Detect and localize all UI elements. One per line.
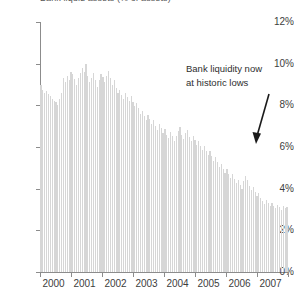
- x-tick-mark: [288, 273, 289, 277]
- x-tick-mark: [102, 273, 103, 277]
- x-tick-mark: [71, 273, 72, 277]
- bar: [286, 207, 287, 272]
- x-tick-label: 2005: [197, 279, 219, 289]
- x-tick-label: 2000: [42, 279, 64, 289]
- plot-area: [40, 22, 288, 272]
- x-tick-label: 2007: [259, 279, 281, 289]
- annotation-line-1: Bank liquidity now: [186, 62, 290, 76]
- x-tick-label: 2003: [135, 279, 157, 289]
- x-tick-mark: [133, 273, 134, 277]
- x-tick-label: 2001: [73, 279, 95, 289]
- chart-title: Bank liquid assets (% of assets): [40, 0, 290, 3]
- annotation-line-2: at historic lows: [186, 76, 290, 90]
- annotation-arrow-icon: [235, 92, 285, 147]
- x-tick-mark: [226, 273, 227, 277]
- x-tick-mark: [40, 273, 41, 277]
- x-tick-mark: [164, 273, 165, 277]
- x-tick-mark: [195, 273, 196, 277]
- bank-liquidity-chart: Bank liquid assets (% of assets) 0%2%4%6…: [0, 0, 294, 303]
- x-tick-label: 2004: [166, 279, 188, 289]
- x-tick-label: 2006: [228, 279, 250, 289]
- annotation-callout: Bank liquidity now at historic lows: [186, 62, 290, 89]
- bar-series: [40, 22, 288, 272]
- x-tick-mark: [257, 273, 258, 277]
- x-tick-label: 2002: [104, 279, 126, 289]
